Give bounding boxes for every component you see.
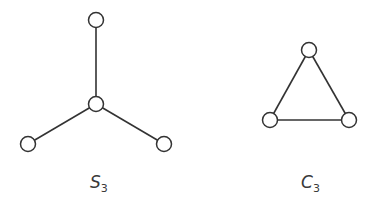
node-right [157,137,172,152]
node-left [21,137,36,152]
node-right [342,113,357,128]
label-s3: S3 [90,174,108,194]
graph-diagram [0,0,377,203]
label-c3: C3 [301,174,320,194]
cycle-graph-c3 [263,43,357,128]
edge-top-left [270,50,309,120]
node-top [89,13,104,28]
node-top [302,43,317,58]
node-center [89,97,104,112]
label-c3-subscript: 3 [313,182,320,195]
node-left [263,113,278,128]
edge-top-right [309,50,349,120]
star-graph-s3 [21,13,172,152]
label-s3-name: S [90,172,101,192]
label-s3-subscript: 3 [101,182,108,195]
edge-center-right [96,104,164,144]
edge-center-left [28,104,96,144]
label-c3-name: C [301,172,313,192]
